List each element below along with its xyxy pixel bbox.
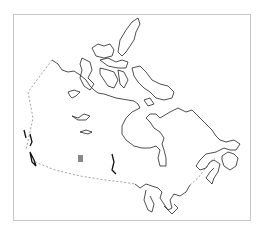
newfoundland: [222, 152, 238, 170]
maritimes-coast: [196, 148, 224, 184]
great-bear-lake: [68, 90, 80, 98]
great-lakes: [135, 184, 190, 214]
labrador-coast: [196, 114, 240, 150]
arctic-islands-central: [100, 68, 128, 88]
canada-map: [0, 0, 265, 228]
great-slave-lake: [72, 114, 90, 120]
us-border-east: [190, 158, 215, 185]
ellesmere-island: [118, 18, 140, 56]
victoria-island: [80, 58, 94, 90]
alaska-border: [26, 60, 52, 150]
hudson-bay: [122, 108, 196, 166]
lake-athabasca: [80, 130, 92, 134]
queen-elizabeth-islands: [92, 44, 128, 68]
location-marker: [78, 155, 83, 162]
northern-coastline: [52, 60, 140, 108]
us-border: [35, 162, 135, 184]
baffin-island: [132, 66, 174, 100]
lake-winnipeg: [112, 154, 116, 174]
southampton-island: [144, 98, 154, 106]
west-coast-islands: [24, 130, 36, 166]
